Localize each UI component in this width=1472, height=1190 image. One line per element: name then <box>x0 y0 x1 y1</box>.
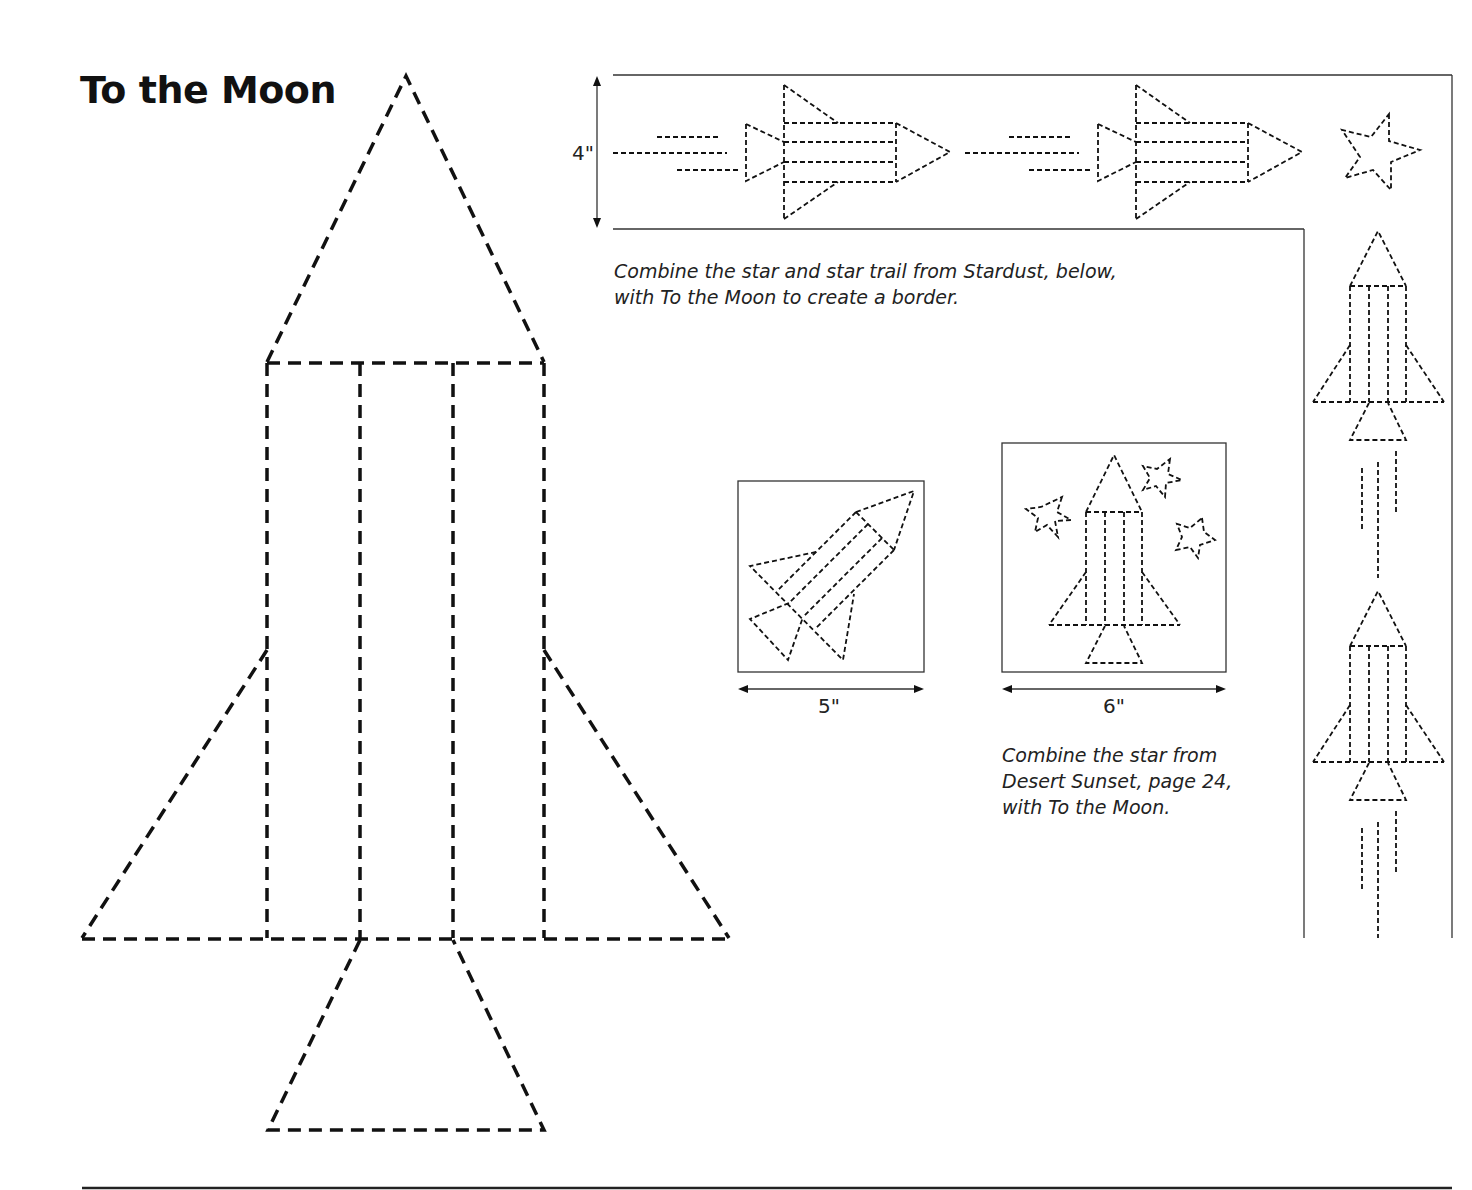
diagonal-rocket-icon <box>750 491 914 660</box>
star-icon <box>1026 497 1071 537</box>
star-icon <box>1176 518 1215 558</box>
border-star-icon <box>1342 114 1420 190</box>
pattern-artwork <box>0 0 1472 1190</box>
block-5in <box>738 481 924 672</box>
main-rocket-template-icon <box>82 76 729 1130</box>
block-rocket-vertical-icon <box>1049 455 1180 663</box>
border-caption: Combine the star and star trail from Sta… <box>614 258 1134 310</box>
border-rocket-vertical-icon <box>1313 591 1444 938</box>
dimension-label-5in: 5" <box>818 694 840 718</box>
border-rocket-horizontal-icon <box>613 85 950 219</box>
dimension-label-6in: 6" <box>1103 694 1125 718</box>
dimension-arrow-4in <box>593 76 601 228</box>
dimension-label-4in: 4" <box>572 141 594 165</box>
block-6in <box>1002 443 1226 672</box>
block-6in-caption: Combine the star from Desert Sunset, pag… <box>1002 742 1242 820</box>
border-rocket-horizontal-icon <box>965 85 1302 219</box>
star-icon <box>1143 459 1182 497</box>
border-rocket-vertical-icon <box>1313 231 1444 578</box>
dimension-arrow-6in <box>1002 685 1226 693</box>
dimension-arrow-5in <box>738 685 924 693</box>
